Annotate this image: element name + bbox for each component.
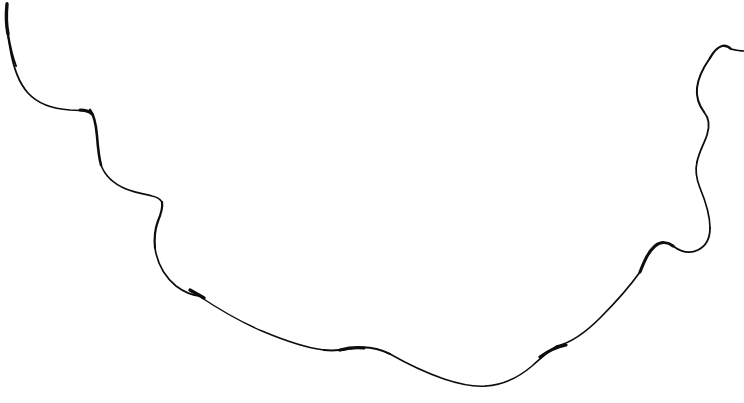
left-start-thick: [6, 4, 8, 34]
drawing-canvas: [0, 0, 744, 403]
canvas-background: [0, 0, 744, 403]
freehand-curve-drawing: [0, 0, 744, 403]
